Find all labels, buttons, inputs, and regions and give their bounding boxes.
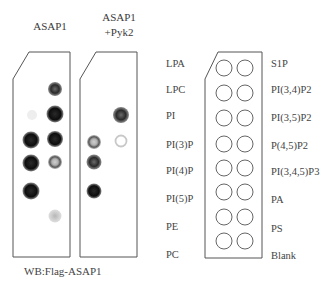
key-label-s1p: S1P — [271, 58, 288, 70]
key-label-blank: Blank — [271, 250, 296, 262]
spot-lpc — [48, 82, 62, 96]
spot-pi4p — [87, 155, 102, 170]
key-label-pi345p3: PI(3,4,5)P3 — [271, 166, 319, 178]
spot-pi-faint — [27, 110, 37, 120]
header-asap1-pyk2-line1: ASAP1 — [90, 11, 148, 24]
strip-asap1 — [13, 52, 70, 257]
spot-pi3p-left — [87, 135, 101, 149]
spot-pi5p — [23, 183, 40, 200]
key-strip — [205, 52, 262, 258]
spot-pi4p-right — [48, 155, 62, 169]
key-label-pe: PE — [166, 221, 178, 233]
spot-pi4p-left — [23, 155, 40, 172]
strip-asap1-pyk2 — [80, 52, 137, 257]
header-asap1: ASAP1 — [22, 20, 78, 33]
spot-pi — [47, 106, 64, 123]
spot-pe — [49, 210, 62, 223]
key-label-pi: PI — [166, 110, 175, 122]
key-label-pa: PA — [271, 194, 283, 206]
header-asap1-pyk2-line2: +Pyk2 — [90, 26, 148, 39]
key-label-pi3p: PI(3)P — [166, 139, 193, 151]
key-label-lpa: LPA — [166, 58, 185, 70]
spot-pi3p-left — [23, 132, 40, 149]
key-label-pi34p2: PI(3,4)P2 — [271, 84, 312, 96]
key-label-pi4p: PI(4)P — [166, 165, 193, 177]
lipid-strip-figure: ASAP1 ASAP1 +Pyk2 LPA LPC PI PI(3)P PI(4… — [0, 0, 331, 289]
key-label-lpc: LPC — [166, 84, 185, 96]
spot-pi — [113, 107, 129, 123]
key-label-ps: PS — [271, 223, 283, 235]
footer-wb-label: WB:Flag-ASAP1 — [24, 265, 102, 277]
key-label-pc: PC — [166, 249, 179, 261]
key-label-pi35p2: PI(3,5)P2 — [271, 112, 312, 124]
key-label-pi5p: PI(5)P — [166, 193, 193, 205]
spot-pi5p — [87, 184, 102, 199]
spot-pi3p-right — [47, 131, 63, 147]
key-label-p45p2: P(4,5)P2 — [271, 140, 308, 152]
